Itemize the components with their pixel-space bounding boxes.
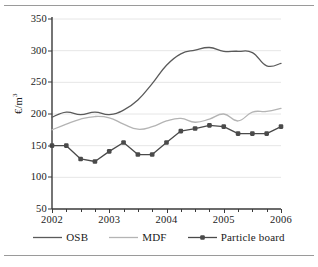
series-particle-board	[50, 123, 284, 164]
x-tick-mark-minor	[66, 209, 67, 212]
y-tick-label: 100	[31, 172, 47, 183]
x-tick-label: 2005	[213, 215, 235, 226]
figure: €/m3 50100150200250300350200220032004200…	[0, 0, 318, 267]
data-point-marker	[93, 159, 98, 164]
x-tick-mark-minor	[81, 209, 82, 212]
y-tick-mark	[48, 177, 52, 178]
legend-swatch	[188, 232, 217, 243]
legend-label: Particle board	[221, 232, 285, 243]
y-tick-mark	[48, 114, 52, 115]
data-point-marker	[207, 123, 212, 128]
data-point-marker	[150, 152, 155, 157]
legend-label: MDF	[142, 232, 166, 243]
data-point-marker	[250, 131, 255, 136]
x-tick-mark-minor	[181, 209, 182, 212]
x-tick-mark-minor	[95, 209, 96, 212]
x-tick-mark-major	[52, 209, 53, 213]
y-tick-mark	[48, 19, 52, 20]
data-point-marker	[236, 131, 241, 136]
y-tick-mark	[48, 50, 52, 51]
data-point-marker	[279, 124, 284, 129]
x-tick-mark-major	[224, 209, 225, 213]
x-tick-mark-minor	[195, 209, 196, 212]
data-point-marker	[179, 129, 184, 134]
legend-swatch	[109, 232, 138, 243]
y-tick-label: 250	[31, 77, 47, 88]
y-tick-label: 300	[31, 45, 47, 56]
x-tick-mark-major	[281, 209, 282, 213]
x-tick-mark-minor	[124, 209, 125, 212]
series-line	[52, 108, 281, 130]
y-tick-label: 50	[36, 204, 47, 215]
legend-label: OSB	[66, 232, 88, 243]
chart-canvas	[52, 19, 281, 209]
y-tick-mark	[48, 82, 52, 83]
data-point-marker	[136, 152, 141, 157]
chart-legend: OSBMDFParticle board	[0, 232, 318, 243]
data-point-marker	[64, 143, 69, 148]
x-tick-label: 2006	[270, 215, 292, 226]
series-mdf	[52, 108, 281, 130]
data-point-marker	[107, 149, 112, 154]
y-tick-label: 350	[31, 14, 47, 25]
x-tick-mark-minor	[267, 209, 268, 212]
data-point-marker	[193, 126, 198, 131]
legend-swatch	[33, 232, 62, 243]
legend-item-particle-board[interactable]: Particle board	[188, 232, 285, 243]
data-point-marker	[78, 157, 83, 162]
x-tick-label: 2004	[156, 215, 178, 226]
x-tick-mark-minor	[209, 209, 210, 212]
y-tick-mark	[48, 145, 52, 146]
data-point-marker	[121, 140, 126, 145]
x-tick-mark-minor	[238, 209, 239, 212]
legend-item-osb[interactable]: OSB	[33, 232, 88, 243]
x-tick-mark-major	[167, 209, 168, 213]
data-point-marker	[221, 124, 226, 129]
legend-item-mdf[interactable]: MDF	[109, 232, 166, 243]
x-tick-mark-major	[109, 209, 110, 213]
x-tick-label: 2002	[41, 215, 63, 226]
y-tick-label: 150	[31, 140, 47, 151]
x-tick-label: 2003	[98, 215, 120, 226]
x-tick-mark-minor	[252, 209, 253, 212]
y-tick-label: 200	[31, 109, 47, 120]
x-tick-mark-minor	[138, 209, 139, 212]
figure-bottom-rule	[4, 255, 314, 256]
data-point-marker	[164, 140, 169, 145]
plot-area: 5010015020025030035020022003200420052006	[52, 19, 281, 209]
y-axis-title: €/m3	[11, 93, 24, 114]
data-point-marker	[264, 131, 269, 136]
legend-marker	[200, 235, 205, 240]
x-tick-mark-minor	[152, 209, 153, 212]
figure-top-rule	[4, 5, 314, 6]
